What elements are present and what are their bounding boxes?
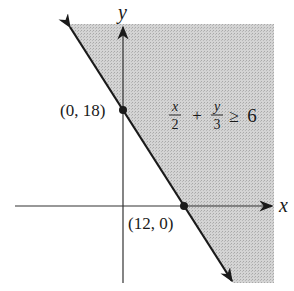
fraction1-denominator: 2 xyxy=(172,117,179,132)
fraction1-numerator: x xyxy=(171,99,179,114)
rhs-value: 6 xyxy=(247,105,257,126)
point-y-intercept xyxy=(119,106,127,114)
plus-sign: + xyxy=(192,106,202,125)
relation-symbol: ≥ xyxy=(229,106,239,126)
y-axis-label: y xyxy=(116,1,127,24)
point-x-intercept xyxy=(180,202,188,210)
point-label-y-intercept: (0, 18) xyxy=(60,101,105,120)
fraction2-denominator: 3 xyxy=(214,117,221,132)
fraction2-numerator: y xyxy=(212,99,221,114)
point-label-x-intercept: (12, 0) xyxy=(128,214,173,233)
inequality-graph: y x (0, 18) (12, 0) x 2 + y 3 ≥ 6 xyxy=(0,0,294,291)
x-axis-label: x xyxy=(278,194,288,216)
shaded-solution-region xyxy=(68,24,274,283)
